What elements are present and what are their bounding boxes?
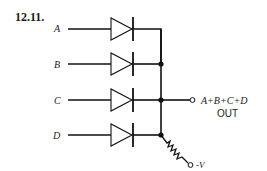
input-label-b: B: [54, 59, 60, 70]
diode-a-to-bus-wire: [133, 29, 161, 64]
diode-c-icon: [111, 89, 132, 111]
diode-a-icon: [111, 18, 132, 40]
input-label-c: C: [54, 95, 61, 106]
input-label-a: A: [53, 23, 61, 34]
input-row-c: C: [54, 88, 164, 112]
input-label-d: D: [52, 130, 61, 141]
output-terminal-icon: [190, 98, 195, 103]
output-label: OUT: [217, 108, 238, 119]
figure-number: 12.11.: [15, 10, 44, 24]
supply-label: -V: [196, 160, 206, 170]
input-row-a: A: [53, 17, 161, 64]
diode-d-icon: [111, 124, 132, 146]
input-row-d: D: [52, 123, 164, 147]
output-expression: A+B+C+D: [200, 95, 248, 106]
input-row-b: B: [54, 52, 164, 76]
diode-or-gate-circuit: 12.11. A B C D A+B+C+D OUT: [0, 0, 267, 171]
supply-terminal-icon: [188, 163, 193, 168]
diode-b-icon: [111, 53, 132, 75]
pulldown-resistor-icon: [161, 135, 188, 163]
